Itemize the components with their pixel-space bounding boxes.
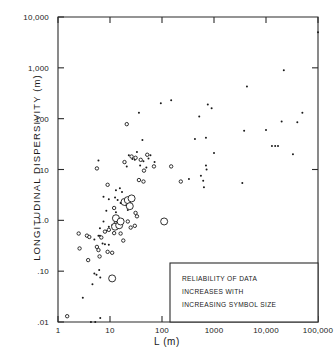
data-point (117, 218, 124, 225)
data-point (115, 211, 117, 213)
data-point (107, 228, 110, 231)
data-point (121, 191, 123, 193)
x-tick-label: 1000 (205, 326, 224, 335)
data-point (99, 277, 101, 279)
data-point (141, 139, 143, 141)
y-tick-label: .10 (0, 267, 49, 276)
data-point (205, 137, 207, 139)
data-point (102, 243, 104, 245)
data-point (133, 224, 136, 227)
data-point (246, 85, 248, 87)
data-point (103, 220, 105, 222)
y-tick-label: 100 (0, 114, 49, 123)
data-point (274, 145, 276, 147)
data-point (108, 198, 110, 200)
data-point (277, 145, 279, 147)
data-point (296, 121, 298, 123)
data-point (194, 138, 196, 140)
data-point (126, 165, 128, 167)
data-point (203, 186, 205, 188)
data-point (138, 112, 140, 114)
legend-line: RELIABILITY OF DATA (182, 275, 257, 282)
y-tick-label: 1,000 (0, 63, 49, 72)
data-point (112, 206, 115, 209)
data-point (65, 315, 68, 318)
data-point (142, 160, 144, 162)
data-point (112, 231, 115, 234)
dispersivity-scatter-figure: 10,0001,000100101.0.10.01 110100100010,0… (0, 0, 334, 357)
data-point (154, 161, 156, 163)
data-point (96, 274, 98, 276)
data-point (206, 169, 208, 171)
data-point (86, 258, 89, 261)
data-point (281, 120, 283, 122)
data-point (126, 203, 133, 210)
data-point (91, 283, 93, 285)
data-point (241, 182, 243, 184)
data-point (283, 69, 285, 71)
data-point (142, 169, 145, 172)
data-point (98, 269, 100, 271)
data-point (207, 104, 209, 106)
data-point (97, 160, 99, 162)
data-point (93, 238, 95, 240)
x-tick-label: 10,000 (253, 326, 279, 335)
data-point (119, 232, 122, 235)
data-point (169, 165, 172, 168)
data-point (103, 230, 106, 233)
data-point (114, 197, 116, 199)
data-point (317, 31, 319, 33)
data-point (93, 272, 95, 274)
data-point (104, 243, 106, 245)
x-tick-label: 100,000 (303, 326, 333, 335)
data-point (200, 175, 202, 177)
data-point (139, 158, 142, 161)
data-point (136, 151, 138, 153)
data-point (146, 153, 149, 156)
data-point (128, 195, 135, 202)
data-point (99, 227, 101, 229)
data-point (119, 187, 121, 189)
data-point (106, 250, 109, 253)
x-tick-label: 1 (56, 326, 61, 335)
data-point (122, 239, 125, 242)
data-point (213, 152, 215, 154)
data-point (292, 153, 294, 155)
data-point (98, 255, 101, 258)
data-point (198, 116, 200, 118)
data-point (82, 297, 84, 299)
data-point (271, 145, 273, 147)
data-point (170, 99, 172, 101)
data-point (109, 275, 116, 282)
x-axis-title: L (m) (0, 336, 334, 347)
data-point (77, 232, 80, 235)
y-tick-label: 10 (0, 165, 49, 174)
data-point (78, 247, 81, 250)
data-point (95, 167, 98, 170)
data-point (117, 199, 119, 201)
data-point (139, 164, 141, 166)
data-point (126, 220, 129, 223)
data-point (105, 210, 107, 212)
data-point (134, 211, 137, 214)
data-point (125, 122, 128, 125)
data-point (110, 251, 113, 254)
data-point (94, 321, 96, 323)
y-tick-label: 1.0 (0, 216, 49, 225)
data-point (179, 180, 182, 183)
y-tick-label: 10,000 (0, 13, 49, 22)
x-tick-label: 10 (105, 326, 114, 335)
data-point (211, 107, 213, 109)
data-point (188, 178, 190, 180)
data-point (106, 183, 109, 186)
data-point (145, 166, 147, 168)
data-point (135, 215, 138, 218)
data-point (103, 196, 105, 198)
data-point (243, 130, 245, 132)
data-point (160, 102, 162, 104)
data-point (97, 248, 100, 251)
legend-line: INCREASING SYMBOL SIZE (182, 301, 276, 308)
data-point (149, 154, 151, 156)
data-point (202, 180, 204, 182)
plot-canvas (0, 0, 334, 357)
